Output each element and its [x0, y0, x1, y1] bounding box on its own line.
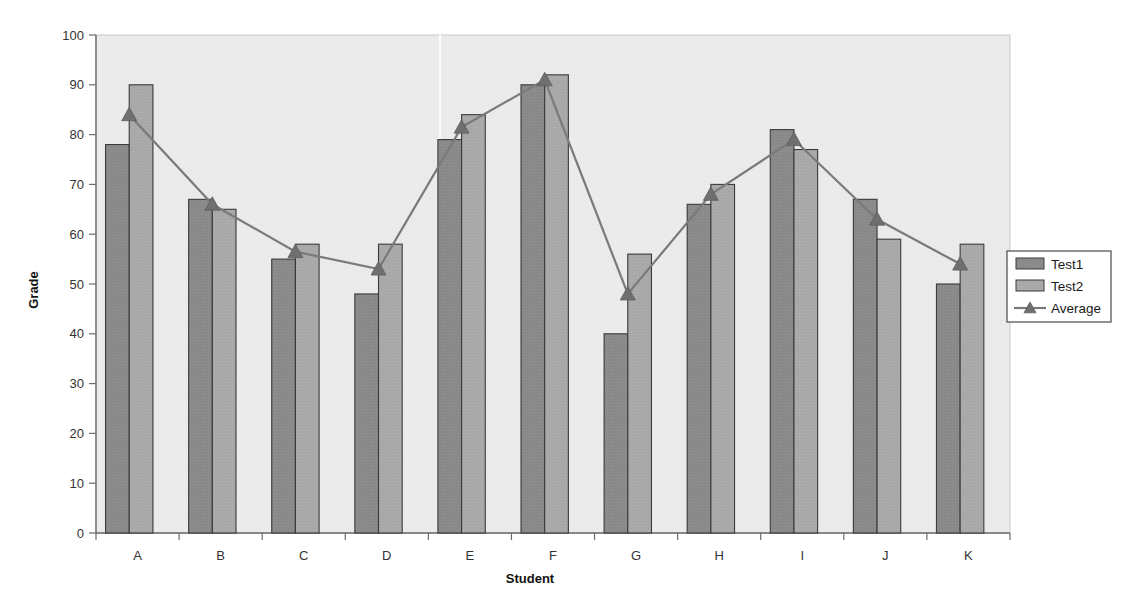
bar-group	[521, 75, 568, 533]
grade-bar-chart: 0102030405060708090100 ABCDEFGHIJK Grade…	[0, 0, 1140, 607]
bar-test2	[129, 85, 153, 533]
y-tick-label: 40	[70, 326, 84, 341]
x-tick-label: G	[631, 548, 641, 563]
bar-test1	[687, 204, 711, 533]
legend-swatch-test1	[1016, 258, 1044, 269]
legend-label-average: Average	[1051, 301, 1101, 316]
y-axis-title: Grade	[26, 271, 41, 309]
bar-test2	[462, 115, 486, 533]
bar-test1	[189, 199, 213, 533]
bar-test2	[212, 209, 236, 533]
x-tick-label: A	[133, 548, 142, 563]
bar-group	[106, 85, 153, 533]
bar-test1	[272, 259, 296, 533]
bar-test2	[545, 75, 569, 533]
bar-test2	[379, 244, 403, 533]
y-tick-label: 50	[70, 277, 84, 292]
y-tick-label: 60	[70, 227, 84, 242]
bar-group	[189, 199, 236, 533]
legend-label-test2: Test2	[1051, 279, 1083, 294]
bar-test1	[770, 130, 794, 533]
x-tick-label: I	[800, 548, 804, 563]
y-tick-label: 70	[70, 177, 84, 192]
bar-test2	[794, 150, 818, 533]
bar-group	[853, 199, 900, 533]
bar-test2	[877, 239, 901, 533]
x-tick-label: D	[382, 548, 391, 563]
legend-swatch-test2	[1016, 280, 1044, 291]
bar-test1	[936, 284, 960, 533]
x-axis-title: Student	[506, 571, 555, 586]
bar-group	[272, 244, 319, 533]
bar-group	[438, 115, 485, 533]
bar-test2	[711, 184, 735, 533]
bar-test2	[295, 244, 319, 533]
x-tick-label: B	[216, 548, 225, 563]
chart-container: 0102030405060708090100 ABCDEFGHIJK Grade…	[0, 0, 1140, 607]
y-tick-label: 30	[70, 376, 84, 391]
y-tick-label: 100	[62, 28, 84, 43]
y-tick-label: 10	[70, 476, 84, 491]
bar-test1	[106, 145, 130, 533]
x-tick-label: K	[964, 548, 973, 563]
bar-test1	[604, 334, 628, 533]
legend-label-test1: Test1	[1051, 257, 1083, 272]
x-tick-label: F	[549, 548, 557, 563]
y-tick-label: 20	[70, 426, 84, 441]
bar-test1	[853, 199, 877, 533]
bar-group	[936, 244, 983, 533]
bar-group	[770, 130, 817, 533]
bar-test1	[355, 294, 379, 533]
x-tick-label: H	[714, 548, 723, 563]
y-tick-label: 90	[70, 77, 84, 92]
y-tick-label: 80	[70, 127, 84, 142]
x-tick-label: E	[466, 548, 475, 563]
x-tick-label: C	[299, 548, 308, 563]
bar-test1	[438, 140, 462, 533]
x-tick-label: J	[882, 548, 889, 563]
chart-legend: Test1Test2Average	[1007, 251, 1111, 322]
y-tick-label: 0	[77, 526, 84, 541]
bar-test1	[521, 85, 545, 533]
bar-group	[687, 184, 734, 533]
bar-test2	[960, 244, 984, 533]
